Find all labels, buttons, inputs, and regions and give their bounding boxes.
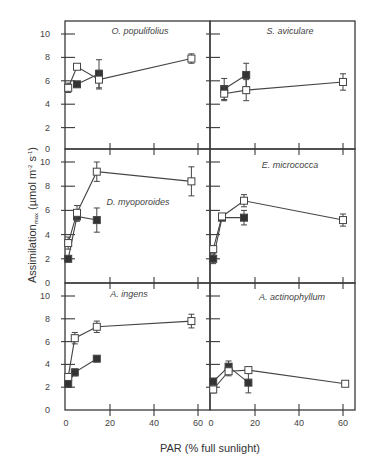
open-square-marker — [188, 55, 195, 62]
y-tick-label: 2 — [45, 254, 50, 264]
x-tick-label: 0 — [63, 418, 68, 428]
y-tick-label: 4 — [45, 359, 50, 369]
y-tick-label: 10 — [40, 157, 50, 167]
open-square-marker — [342, 380, 349, 387]
y-tick-label: 2 — [45, 382, 50, 392]
open-square-marker — [210, 246, 217, 253]
open-square-marker — [93, 168, 100, 175]
x-tick-label: 60 — [193, 418, 203, 428]
open-square-marker — [71, 335, 78, 342]
filled-square-marker — [93, 355, 100, 362]
panel-title: A. actinophyllum — [258, 292, 326, 302]
y-tick-label: 6 — [45, 76, 50, 86]
x-tick-label: 40 — [294, 418, 304, 428]
panel-e-micrococca: E. micrococca — [206, 149, 355, 289]
y-tick-label: 6 — [45, 205, 50, 215]
open-square-marker — [96, 76, 103, 83]
y-tick-label: 8 — [45, 314, 50, 324]
y-tick-label: 0 — [45, 278, 50, 288]
panels-group: 2468100O. populifoliusS. aviculare246810… — [40, 21, 355, 428]
y-tick-label: 2 — [45, 123, 50, 133]
y-tick-label: 6 — [45, 337, 50, 347]
y-tick-label: 10 — [40, 291, 50, 301]
filled-square-marker — [241, 214, 248, 221]
open-square-marker — [340, 217, 347, 224]
filled-square-marker — [243, 71, 250, 78]
filled-square-marker — [71, 369, 78, 376]
y-tick-label: 0 — [45, 405, 50, 415]
svg-text:Assimilationmax (µmol m-2 s-1): Assimilationmax (µmol m-2 s-1) — [26, 147, 39, 283]
panel-a-ingens: 24681002040600A. ingens — [40, 283, 210, 428]
open-square-marker — [93, 323, 100, 330]
open-square-marker — [243, 87, 250, 94]
filled-square-marker — [93, 217, 100, 224]
panel-title: A. ingens — [109, 289, 148, 299]
filled-square-marker — [65, 255, 72, 262]
panel-a-actinophyllum: 2040600A. actinophyllum — [206, 283, 355, 428]
panel-title: E. micrococca — [262, 160, 319, 170]
panel-title: D. myoporoides — [106, 197, 170, 207]
open-square-marker — [74, 209, 81, 216]
open-square-marker — [245, 367, 252, 374]
panel-title: S. aviculare — [266, 26, 313, 36]
open-square-marker — [241, 197, 248, 204]
y-tick-label: 8 — [45, 181, 50, 191]
x-axis-label: PAR (% full sunlight) — [160, 442, 260, 454]
open-square-marker — [221, 90, 228, 97]
open-square-marker — [65, 84, 72, 91]
open-square-marker — [188, 318, 195, 325]
filled-square-marker — [210, 255, 217, 262]
open-square-marker — [65, 240, 72, 247]
filled-square-marker — [245, 379, 252, 386]
open-square-marker — [74, 63, 81, 70]
open-square-marker — [188, 178, 195, 185]
panel-o-populifolius: 2468100O. populifolius — [40, 21, 210, 155]
y-tick-label: 8 — [45, 52, 50, 62]
open-square-marker — [65, 373, 72, 380]
filled-square-marker — [65, 380, 72, 387]
y-axis-label: Assimilationmax (µmol m-2 s-1) — [26, 147, 39, 283]
panel-title: O. populifolius — [111, 26, 169, 36]
open-square-marker — [219, 213, 226, 220]
multi-panel-chart: 2468100O. populifoliusS. aviculare246810… — [0, 0, 372, 468]
panel-s-aviculare: S. aviculare — [206, 21, 355, 155]
filled-square-marker — [74, 81, 81, 88]
y-tick-label: 4 — [45, 99, 50, 109]
open-square-marker — [210, 386, 217, 393]
open-square-marker — [225, 368, 232, 375]
y-tick-label: 0 — [45, 144, 50, 154]
x-tick-label: 40 — [149, 418, 159, 428]
x-tick-label: 60 — [338, 418, 348, 428]
panel-d-myoporoides: 2468100D. myoporoides — [40, 149, 210, 289]
open-square-marker — [340, 78, 347, 85]
x-tick-label: 20 — [250, 418, 260, 428]
x-tick-label: 20 — [105, 418, 115, 428]
x-tick-label: 0 — [208, 418, 213, 428]
y-tick-label: 10 — [40, 29, 50, 39]
y-tick-label: 4 — [45, 230, 50, 240]
filled-square-marker — [210, 378, 217, 385]
